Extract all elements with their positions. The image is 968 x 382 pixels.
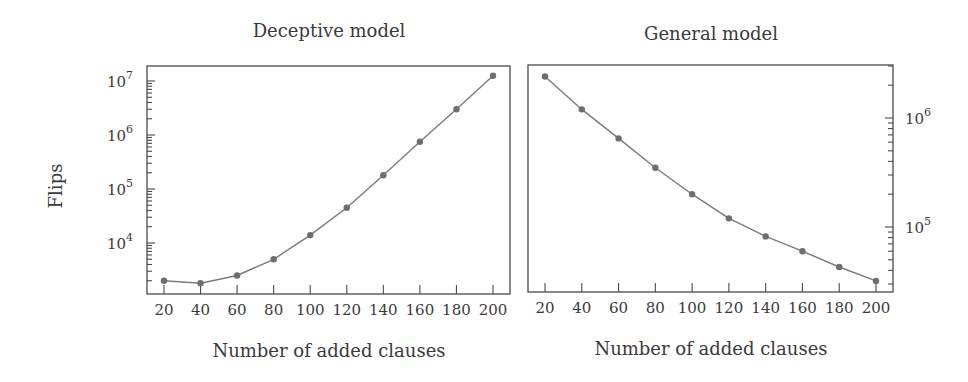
x-tick-label: 200 <box>862 299 891 317</box>
data-point <box>453 106 459 112</box>
data-point <box>417 139 423 145</box>
plot-frame-deceptive <box>147 66 510 294</box>
data-point <box>542 73 548 79</box>
general-model-panel: General model 105106 2040608010012014016… <box>528 23 931 359</box>
data-point <box>615 135 621 141</box>
x-tick-label: 160 <box>788 299 817 317</box>
data-point <box>799 248 805 254</box>
data-point <box>270 256 276 262</box>
data-point <box>762 233 768 239</box>
data-point <box>689 191 695 197</box>
chart-title-general: General model <box>644 23 778 44</box>
x-axis-label-deceptive: Number of added clauses <box>212 340 445 361</box>
x-tick-label: 80 <box>646 299 665 317</box>
data-point <box>652 164 658 170</box>
x-axis-deceptive: 20406080100120140160180200 <box>154 285 507 319</box>
x-tick-label: 120 <box>715 299 744 317</box>
x-tick-label: 140 <box>369 301 398 319</box>
x-tick-label: 100 <box>678 299 707 317</box>
x-tick-label: 40 <box>572 299 591 317</box>
x-tick-label: 20 <box>535 299 554 317</box>
data-point <box>490 73 496 79</box>
data-point <box>579 106 585 112</box>
x-axis-general: 20406080100120140160180200 <box>535 283 890 317</box>
data-point <box>344 205 350 211</box>
y-axis-general: 105106 <box>885 66 931 284</box>
data-point <box>307 232 313 238</box>
x-tick-label: 40 <box>191 301 210 319</box>
x-tick-label: 60 <box>609 299 628 317</box>
series-line-deceptive <box>164 76 493 283</box>
chart-title-deceptive: Deceptive model <box>253 20 406 41</box>
y-tick-label: 106 <box>107 123 133 145</box>
plot-frame-general <box>528 65 893 292</box>
y-tick-label: 104 <box>107 231 133 253</box>
x-tick-label: 180 <box>442 301 471 319</box>
data-point <box>161 278 167 284</box>
data-points-general <box>542 73 879 284</box>
y-tick-label: 105 <box>905 215 931 237</box>
series-line-general <box>545 77 876 281</box>
data-point <box>873 278 879 284</box>
x-tick-label: 200 <box>479 301 508 319</box>
y-axis-label: Flips <box>45 164 66 209</box>
data-point <box>197 280 203 286</box>
x-tick-label: 100 <box>296 301 325 319</box>
x-tick-label: 120 <box>332 301 361 319</box>
x-tick-label: 20 <box>154 301 173 319</box>
data-point <box>234 272 240 278</box>
deceptive-model-panel: Deceptive model 104105106107 20406080100… <box>107 20 510 361</box>
data-point <box>726 215 732 221</box>
x-tick-label: 180 <box>825 299 854 317</box>
y-tick-label: 106 <box>905 106 931 128</box>
data-point <box>836 264 842 270</box>
data-point <box>380 172 386 178</box>
x-axis-label-general: Number of added clauses <box>594 338 827 359</box>
x-tick-label: 140 <box>751 299 780 317</box>
y-tick-label: 107 <box>107 69 133 91</box>
x-tick-label: 60 <box>228 301 247 319</box>
x-tick-label: 80 <box>264 301 283 319</box>
data-points-deceptive <box>161 73 496 287</box>
y-tick-label: 105 <box>107 177 133 199</box>
y-axis-deceptive: 104105106107 <box>107 69 155 281</box>
figure: Flips Deceptive model 104105106107 20406… <box>0 0 968 382</box>
x-tick-label: 160 <box>406 301 435 319</box>
